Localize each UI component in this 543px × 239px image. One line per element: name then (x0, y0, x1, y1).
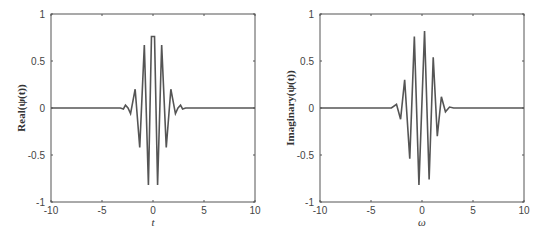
y-tick-label: 0.5 (300, 56, 314, 67)
y-axis-label: Real(ψ(t)) (15, 84, 28, 132)
y-tick-label: 1 (308, 9, 314, 20)
y-tick-label: 0.5 (31, 56, 45, 67)
y-tick-label: 0 (308, 103, 314, 114)
y-tick-label: -0.5 (28, 150, 46, 161)
y-tick-label: -0.5 (297, 150, 315, 161)
y-tick-label: 1 (39, 9, 45, 20)
figure: -10-50510-1-0.500.51tReal(ψ(t)) -10-5051… (0, 0, 543, 239)
x-tick-label: -5 (98, 205, 107, 216)
x-tick-label: 0 (150, 205, 156, 216)
x-tick-label: 5 (201, 205, 207, 216)
y-tick-label: -1 (305, 197, 314, 208)
y-axis-label: Imaginary(ψ(t)) (284, 70, 297, 146)
x-tick-label: 0 (419, 205, 425, 216)
x-tick-label: -10 (44, 205, 59, 216)
x-tick-label: 5 (470, 205, 476, 216)
y-tick-label: -1 (36, 197, 45, 208)
x-tick-label: -10 (313, 205, 328, 216)
x-axis-label: ω (418, 216, 426, 228)
imaginary-part-plot: -10-50510-1-0.500.51ωImaginary(ψ(t)) (284, 9, 530, 229)
real-part-plot: -10-50510-1-0.500.51tReal(ψ(t)) (15, 9, 261, 229)
x-axis-label: t (151, 216, 155, 228)
y-tick-label: 0 (39, 103, 45, 114)
x-tick-label: 10 (518, 205, 530, 216)
x-tick-label: -5 (367, 205, 376, 216)
x-tick-label: 10 (249, 205, 261, 216)
